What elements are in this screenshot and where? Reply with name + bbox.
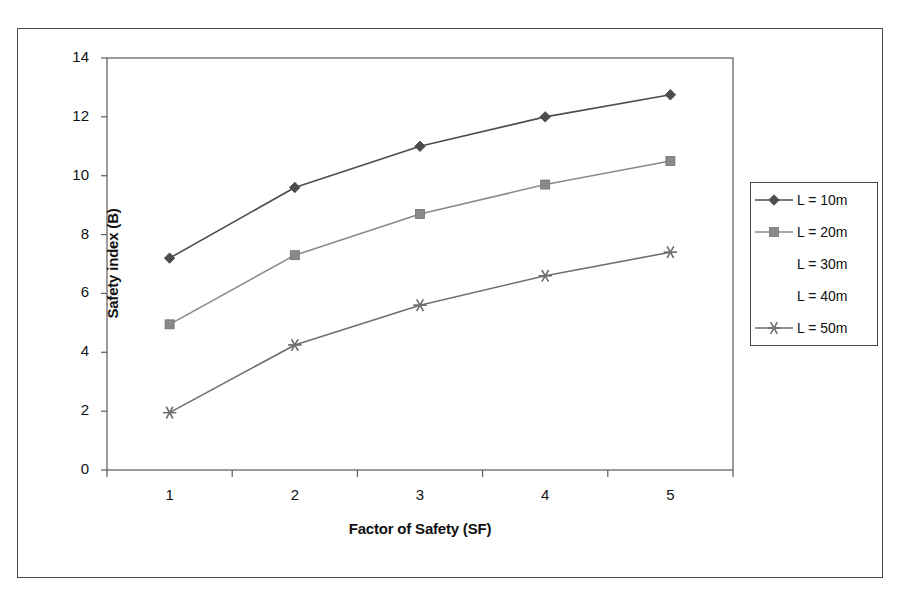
x-tick-label: 2 [275, 486, 315, 503]
data-point-marker-square [541, 180, 550, 189]
x-tick-label: 5 [650, 486, 690, 503]
y-tick-label: 6 [49, 283, 89, 300]
data-point-marker-square [165, 320, 174, 329]
legend-marker-icon [751, 280, 797, 312]
y-tick-label: 12 [49, 107, 89, 124]
legend-marker-icon [751, 248, 797, 280]
legend-item-1[interactable]: L = 10m [751, 184, 879, 216]
legend-marker-icon [751, 216, 797, 248]
legend-item-3[interactable]: L = 30m [751, 248, 879, 280]
x-tick-label: 4 [525, 486, 565, 503]
x-axis-title: Factor of Safety (SF) [107, 520, 733, 537]
legend-item-5[interactable]: L = 50m [751, 312, 879, 344]
y-tick-label: 4 [49, 342, 89, 359]
y-tick-label: 14 [49, 48, 89, 65]
legend-label: L = 40m [797, 280, 847, 312]
y-tick-label: 2 [49, 401, 89, 418]
x-axis-ticks [107, 470, 733, 477]
data-point-marker-square [770, 228, 779, 237]
data-point-marker-diamond [769, 195, 779, 205]
data-point-marker-square [416, 209, 425, 218]
legend-marker-icon [751, 312, 797, 344]
legend-label: L = 20m [797, 216, 847, 248]
y-tick-label: 10 [49, 166, 89, 183]
legend-label: L = 30m [797, 248, 847, 280]
legend-marker-icon [751, 184, 797, 216]
y-axis-title: Safety index (B) [104, 54, 121, 474]
y-tick-label: 0 [49, 460, 89, 477]
legend-item-2[interactable]: L = 20m [751, 216, 879, 248]
x-tick-label: 3 [400, 486, 440, 503]
data-point-marker-star [767, 322, 780, 333]
figure-container: 02468101214 12345 Factor of Safety (SF) … [0, 0, 902, 602]
legend-item-4[interactable]: L = 40m [751, 280, 879, 312]
plot-area [107, 58, 733, 470]
data-point-marker-square [666, 157, 675, 166]
y-tick-label: 8 [49, 225, 89, 242]
data-point-marker-square [290, 251, 299, 260]
x-tick-label: 1 [150, 486, 190, 503]
legend-label: L = 10m [797, 184, 847, 216]
legend-label: L = 50m [797, 312, 847, 344]
legend: L = 10mL = 20mL = 30mL = 40mL = 50m [750, 182, 878, 346]
